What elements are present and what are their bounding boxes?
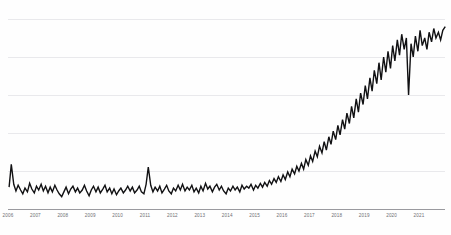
x-axis-tick-label: 2012 [167, 213, 178, 218]
x-axis: 2006200720082009201020112012201320142015… [0, 209, 451, 235]
plot-area [0, 0, 451, 211]
series-path [9, 27, 445, 197]
x-axis-tick-label: 2008 [57, 213, 68, 218]
x-axis-tick-label: 2011 [140, 213, 150, 218]
x-axis-tick-label: 2006 [3, 213, 14, 218]
x-axis-tick-label: 2016 [277, 213, 288, 218]
x-axis-tick-label: 2010 [112, 213, 123, 218]
x-axis-tick-label: 2017 [304, 213, 315, 218]
x-axis-tick-label: 2018 [331, 213, 342, 218]
x-axis-line [8, 209, 445, 210]
series-line-chart [0, 0, 451, 211]
x-axis-tick-label: 2021 [414, 213, 425, 218]
x-axis-tick-label: 2015 [249, 213, 260, 218]
line-chart: 2006200720082009201020112012201320142015… [0, 0, 451, 235]
x-axis-tick-label: 2014 [222, 213, 233, 218]
x-axis-tick-label: 2020 [386, 213, 397, 218]
x-axis-tick-label: 2009 [85, 213, 96, 218]
x-axis-tick-label: 2019 [359, 213, 370, 218]
x-axis-tick-label: 2007 [30, 213, 41, 218]
x-axis-tick-label: 2013 [194, 213, 205, 218]
